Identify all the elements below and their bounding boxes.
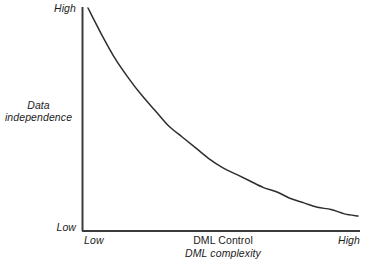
y-axis-title-line-2: independence <box>0 111 77 123</box>
x-axis-title: DML Control DML complexity <box>86 234 360 260</box>
y-axis-low-tick-label: Low <box>0 221 76 233</box>
x-axis-title-line-2: DML complexity <box>86 247 360 259</box>
x-axis-title-line-1: DML Control <box>86 234 360 246</box>
y-axis-title: Data independence <box>0 99 77 124</box>
data-curve <box>88 8 358 216</box>
chart-figure: High Low Data independence Low High DML … <box>0 0 371 278</box>
y-axis-title-line-1: Data <box>0 99 77 111</box>
y-axis-high-tick-label: High <box>0 2 76 14</box>
